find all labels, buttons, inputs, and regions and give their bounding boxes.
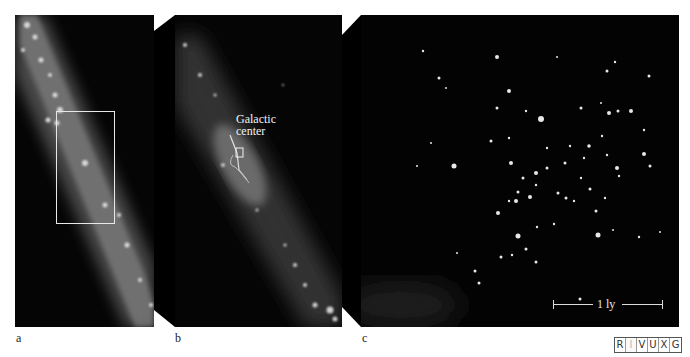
galactic-center-annotation: Galactic center <box>236 113 276 137</box>
band-v: V <box>637 338 648 352</box>
band-i-active: I <box>626 338 637 352</box>
panel-c-star-cluster: 1 ly <box>361 15 679 327</box>
band-x: X <box>659 338 670 352</box>
panel-a-wide-field <box>15 15 154 327</box>
panel-label-a: a <box>16 331 21 346</box>
annotation-line-2: center <box>236 125 276 137</box>
panel-label-b: b <box>175 331 181 346</box>
star-cluster-image <box>361 15 679 327</box>
band-g: G <box>670 338 681 352</box>
connector-a-b <box>154 15 175 327</box>
scale-bar: 1 ly <box>553 297 663 311</box>
connector-b-c <box>342 15 361 327</box>
zoom-region-box <box>56 111 115 224</box>
scale-bar-label: 1 ly <box>597 297 615 311</box>
wavelength-band-indicator: R I V U X G <box>614 337 682 353</box>
band-r: R <box>615 338 626 352</box>
panel-label-c: c <box>362 331 367 346</box>
panel-b-galactic-center: Galactic center <box>175 15 342 327</box>
galactic-center-image <box>175 15 342 327</box>
band-u: U <box>648 338 659 352</box>
